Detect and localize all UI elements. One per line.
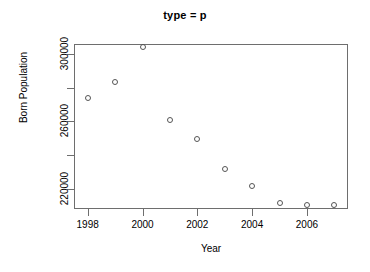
y-axis-title: Born Population bbox=[18, 38, 29, 138]
x-axis-tick bbox=[143, 209, 144, 216]
data-point bbox=[249, 183, 255, 189]
y-axis-tick bbox=[67, 155, 74, 156]
y-axis-tick-label: 300000 bbox=[59, 24, 70, 84]
x-axis-tick bbox=[197, 209, 198, 216]
x-axis-tick-label: 2004 bbox=[229, 219, 275, 230]
chart-title: type = p bbox=[0, 9, 370, 21]
data-point bbox=[85, 95, 91, 101]
data-point bbox=[304, 202, 310, 208]
data-point bbox=[112, 79, 118, 85]
y-axis-tick-label: 260000 bbox=[59, 91, 70, 151]
data-point-layer bbox=[74, 44, 348, 209]
data-point bbox=[277, 200, 283, 206]
x-axis-tick bbox=[88, 209, 89, 216]
x-axis-tick bbox=[307, 209, 308, 216]
x-axis-title: Year bbox=[74, 243, 348, 254]
data-point bbox=[331, 202, 337, 208]
data-point bbox=[194, 136, 200, 142]
y-axis-tick bbox=[67, 88, 74, 89]
data-point bbox=[222, 166, 228, 172]
x-axis-tick-label: 2002 bbox=[174, 219, 220, 230]
x-axis-tick bbox=[252, 209, 253, 216]
x-axis-tick-label: 2006 bbox=[284, 219, 330, 230]
y-axis-tick-label: 220000 bbox=[59, 158, 70, 218]
chart-screenshot: type = p Born Population Year 1998200020… bbox=[0, 0, 370, 272]
data-point bbox=[140, 44, 146, 50]
x-axis-tick-label: 2000 bbox=[120, 219, 166, 230]
data-point bbox=[167, 117, 173, 123]
x-axis-tick-label: 1998 bbox=[65, 219, 111, 230]
